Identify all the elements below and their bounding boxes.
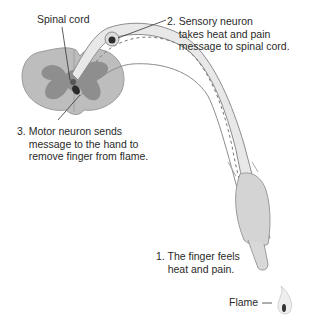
finger-label: 1. The finger feels heat and pain.	[156, 250, 240, 275]
sensory-neuron-body	[109, 37, 116, 44]
flame-icon	[278, 286, 292, 314]
sensory-neuron-label: 2. Sensory neuron takes heat and pain me…	[167, 15, 290, 53]
motor-neuron-label: 3. Motor neuron sends message to the han…	[17, 125, 148, 163]
spinal-cord-cross-section	[22, 48, 124, 115]
spinal-cord-label: Spinal cord	[37, 13, 90, 26]
flame-label: Flame	[229, 296, 258, 309]
